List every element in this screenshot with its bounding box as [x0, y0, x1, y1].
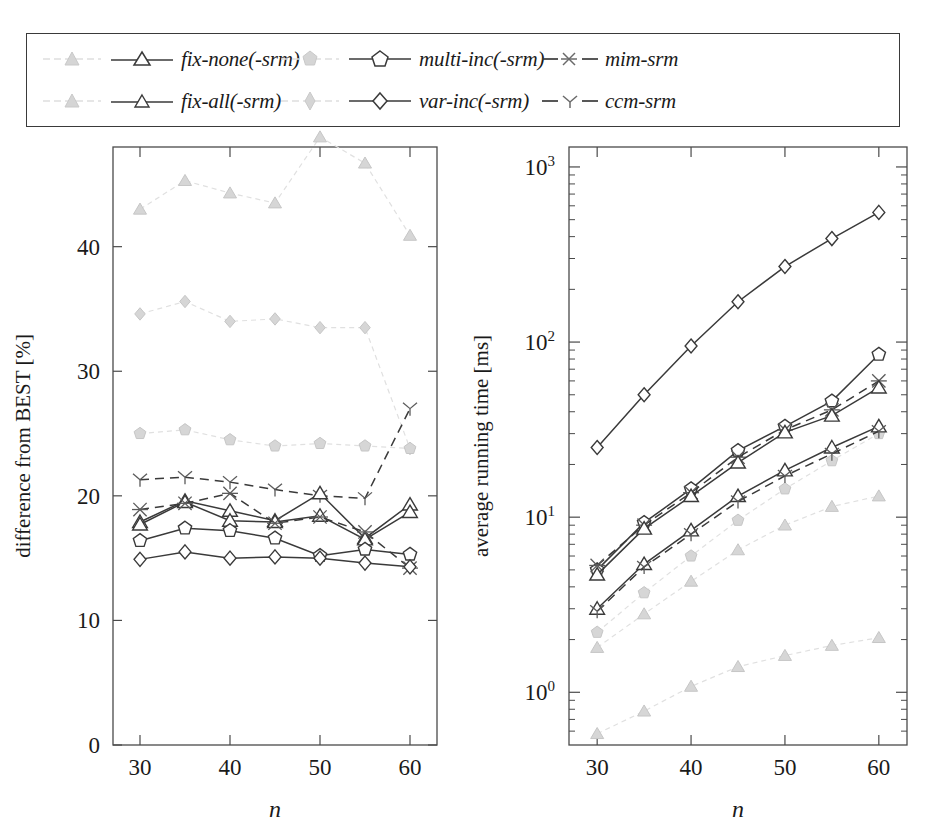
data-point-pentagonthin	[779, 483, 791, 494]
data-point-triangle	[591, 728, 604, 739]
data-point-diamondthin	[360, 321, 371, 333]
data-point-diamondthin	[180, 295, 191, 307]
data-point-pentagon	[872, 347, 885, 360]
data-point-triangle	[178, 174, 191, 185]
data-point-triangle	[591, 641, 604, 652]
series-line	[597, 381, 879, 566]
data-point-triangle	[685, 680, 698, 691]
legend-swatch-faint-diamond-icon	[279, 88, 341, 114]
data-point-pentagonthin	[732, 514, 744, 525]
legend-swatch-faint-triangle2-icon	[41, 88, 103, 114]
y-tick-label: 103	[525, 153, 556, 180]
figure-root: fix-none(-srm) multi-inc(-srm)	[0, 0, 929, 835]
series-ccm-srm	[133, 403, 417, 506]
data-point-diamond	[224, 551, 236, 565]
data-point-pentagon	[178, 521, 191, 534]
legend-entry-mim-srm: mim-srm	[541, 46, 771, 72]
y-axis-label: average running time [ms]	[469, 335, 493, 557]
data-point-triangle	[685, 575, 698, 586]
legend-entry-fix-all: fix-all(-srm)	[41, 88, 279, 114]
data-point-pentagonthin	[359, 440, 371, 451]
data-point-pentagonthin	[224, 434, 236, 445]
legend-entry-ccm-srm: ccm-srm	[541, 88, 771, 114]
legend-entry-multi-inc: multi-inc(-srm)	[279, 46, 541, 72]
series-line	[597, 638, 879, 734]
data-point-triangle	[731, 544, 744, 555]
x-tick-label: 40	[680, 755, 703, 780]
series-line	[140, 409, 410, 499]
data-point-pentagonthin	[404, 442, 416, 453]
legend-swatch-asterisk-icon	[541, 46, 599, 72]
data-point-triangle	[778, 463, 793, 475]
data-point-triangle	[638, 608, 651, 619]
data-point-ystar	[133, 474, 147, 487]
data-point-diamond	[179, 545, 191, 559]
data-point-triangle	[778, 519, 791, 530]
legend-label-var-inc: var-inc(-srm)	[419, 89, 529, 114]
data-point-triangle	[731, 660, 744, 671]
data-point-triangle	[871, 419, 886, 431]
series-fix-none	[591, 631, 886, 738]
right-chart: 10010110210330405060naverage running tim…	[464, 130, 929, 835]
left-chart: 01020304030405060ndifference from BEST […	[0, 130, 465, 835]
legend-entry-var-inc: var-inc(-srm)	[279, 88, 541, 114]
x-tick-label: 30	[129, 755, 152, 780]
data-point-triangle	[268, 197, 281, 208]
y-tick-label: 40	[77, 235, 100, 260]
x-axis-label: n	[269, 796, 281, 822]
data-point-triangle	[731, 489, 746, 501]
data-point-diamond	[826, 232, 838, 246]
x-tick-label: 50	[309, 755, 332, 780]
legend-swatch-diamond-icon	[347, 88, 413, 114]
data-point-pentagonthin	[314, 437, 326, 448]
data-point-triangle	[133, 203, 146, 214]
legend-swatch-faint-triangle-icon	[41, 46, 103, 72]
data-point-ystar	[358, 492, 372, 505]
data-point-triangle	[872, 490, 885, 501]
legend-label-multi-inc: multi-inc(-srm)	[419, 47, 544, 72]
data-point-diamond	[779, 260, 791, 274]
y-tick-label: 20	[77, 484, 100, 509]
y-tick-label: 100	[525, 678, 556, 705]
y-tick-label: 101	[525, 503, 556, 530]
y-tick-label: 10	[77, 608, 100, 633]
data-point-triangle	[313, 131, 326, 142]
data-point-pentagonthin	[134, 427, 146, 438]
data-point-triangle	[223, 187, 236, 198]
series-var-inc-srm	[134, 545, 416, 574]
data-point-ystar	[403, 403, 417, 416]
data-point-triangle	[872, 631, 885, 642]
data-point-pentagonthin	[179, 424, 191, 435]
data-point-pentagonthin	[638, 587, 650, 598]
data-point-triangle	[403, 229, 416, 240]
x-tick-label: 30	[586, 755, 609, 780]
data-point-diamond	[134, 552, 146, 566]
y-tick-label: 102	[525, 328, 556, 355]
legend-swatch-ystar-icon	[541, 88, 599, 114]
x-axis-label: n	[732, 796, 744, 822]
y-tick-label: 30	[77, 359, 100, 384]
data-point-pentagon	[268, 531, 281, 544]
legend-label-ccm-srm: ccm-srm	[605, 89, 676, 114]
data-point-diamondthin	[270, 313, 281, 325]
legend-swatch-triangle-icon	[109, 46, 175, 72]
x-tick-label: 60	[399, 755, 422, 780]
y-axis-label: difference from BEST [%]	[11, 334, 35, 558]
series-mim-srm	[589, 374, 887, 572]
data-point-triangle	[638, 705, 651, 716]
data-point-triangle	[358, 157, 371, 168]
data-point-diamond	[359, 556, 371, 570]
data-point-diamond	[269, 550, 281, 564]
data-point-diamond	[873, 205, 885, 219]
x-tick-label: 50	[773, 755, 796, 780]
legend-swatch-pentagon-icon	[347, 46, 413, 72]
data-point-diamondthin	[135, 308, 146, 320]
legend-swatch-triangle2-icon	[109, 88, 175, 114]
data-point-pentagonthin	[269, 440, 281, 451]
data-point-triangle	[313, 486, 328, 498]
data-point-diamondthin	[315, 321, 326, 333]
legend-entry-fix-none: fix-none(-srm)	[41, 46, 279, 72]
legend-grid: fix-none(-srm) multi-inc(-srm)	[27, 34, 899, 126]
legend: fix-none(-srm) multi-inc(-srm)	[26, 33, 900, 127]
data-point-diamondthin	[225, 315, 236, 327]
